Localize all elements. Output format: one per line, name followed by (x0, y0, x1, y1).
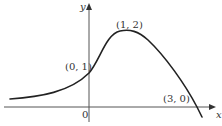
x-axis-arrow-icon (209, 104, 216, 110)
origin-label: 0 (82, 109, 88, 120)
y-axis-label: y (79, 1, 86, 12)
point-label-0-1: (0, 1) (65, 61, 92, 72)
graph: y x 0 (0, 1) (1, 2) (3, 0) (0, 0, 222, 126)
point-label-3-0: (3, 0) (163, 93, 190, 104)
y-axis-arrow-icon (86, 3, 92, 10)
x-axis-label: x (216, 109, 222, 120)
point-label-1-2: (1, 2) (116, 19, 143, 30)
